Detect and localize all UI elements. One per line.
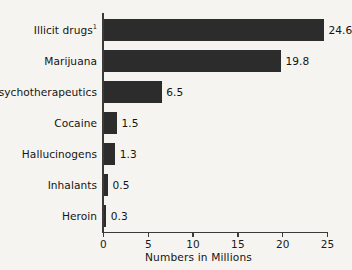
bar-row: Psychotherapeutics6.5	[0, 76, 339, 107]
value-label-heroin: 0.3	[111, 210, 128, 222]
category-label-inhalants: Inhalants	[48, 179, 97, 191]
category-label-heroin: Heroin	[62, 210, 97, 222]
bar-psychotherapeutics	[104, 81, 162, 103]
x-tick-25	[327, 232, 328, 237]
value-label-psychotherapeutics: 6.5	[166, 86, 183, 98]
value-label-marijuana: 19.8	[285, 55, 309, 67]
bar-hallucinogens	[104, 143, 116, 165]
x-tick-label-25: 25	[321, 238, 335, 250]
x-tick-15	[237, 232, 238, 237]
x-axis-line	[102, 232, 328, 234]
bar-row: Hallucinogens1.3	[0, 138, 339, 169]
bar-heroin	[104, 205, 107, 227]
category-label-hallucinogens: Hallucinogens	[22, 148, 97, 160]
bar-row: Inhalants0.5	[0, 170, 339, 201]
footnote-marker: 1	[93, 23, 97, 31]
x-tick-label-20: 20	[276, 238, 290, 250]
category-label-psychotherapeutics: Psychotherapeutics	[0, 86, 97, 98]
bar-cocaine	[104, 112, 117, 134]
value-label-cocaine: 1.5	[121, 117, 138, 129]
bar-row: Heroin0.3	[0, 201, 339, 232]
value-label-illicit-drugs: 24.6	[328, 24, 352, 36]
category-label-illicit-drugs: Illicit drugs1	[34, 24, 97, 36]
x-tick-label-0: 0	[100, 238, 107, 250]
bar-inhalants	[104, 174, 108, 196]
bar-row: Illicit drugs124.6	[0, 14, 339, 45]
x-tick-10	[192, 232, 193, 237]
bar-row: Cocaine1.5	[0, 107, 339, 138]
x-tick-label-10: 10	[186, 238, 200, 250]
value-label-inhalants: 0.5	[112, 179, 129, 191]
value-label-hallucinogens: 1.3	[120, 148, 137, 160]
x-tick-label-5: 5	[145, 238, 152, 250]
x-tick-0	[103, 232, 104, 237]
bar-marijuana	[104, 50, 281, 72]
x-tick-label-15: 15	[231, 238, 245, 250]
x-axis-title: Numbers in Millions	[0, 251, 339, 263]
bar-illicit-drugs	[104, 19, 324, 41]
x-tick-5	[148, 232, 149, 237]
bar-row: Marijuana19.8	[0, 45, 339, 76]
category-label-cocaine: Cocaine	[54, 117, 97, 129]
x-tick-20	[282, 232, 283, 237]
x-axis-title-text: Numbers in Millions	[145, 251, 252, 263]
category-label-marijuana: Marijuana	[44, 55, 97, 67]
